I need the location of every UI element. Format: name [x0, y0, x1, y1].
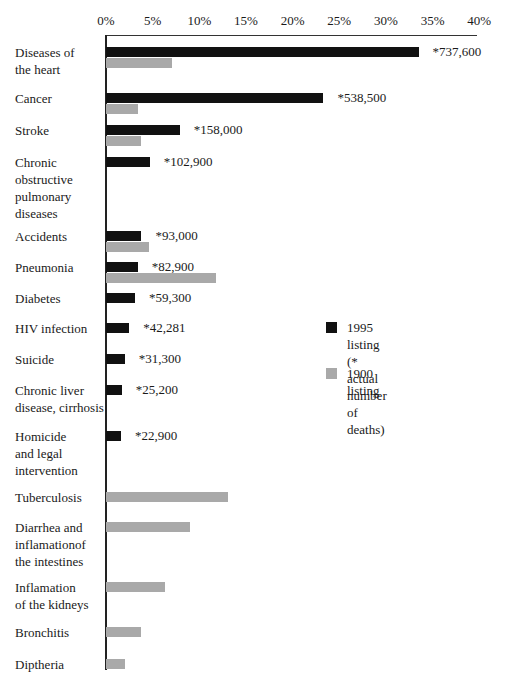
bar-1995 [106, 385, 122, 395]
bar-1995 [106, 157, 150, 167]
bar-1900 [106, 582, 165, 592]
value-annotation: *158,000 [194, 123, 243, 137]
bar-1995 [106, 354, 125, 364]
bar-1995 [106, 431, 121, 441]
bar-1995 [106, 262, 138, 272]
category-label: Chronic liver disease, cirrhosis [15, 382, 104, 416]
bar-1900 [106, 136, 141, 146]
category-label: Diptheria [15, 656, 64, 673]
bar-1900 [106, 273, 216, 283]
legend-swatch-1995 [326, 322, 337, 333]
x-tick-label: 15% [234, 13, 258, 29]
bar-1900 [106, 242, 149, 252]
category-label: Inflamation of the kidneys [15, 579, 89, 613]
category-label: Bronchitis [15, 624, 69, 641]
x-tick-label: 25% [327, 13, 351, 29]
value-annotation: *59,300 [149, 291, 191, 305]
bar-1900 [106, 492, 228, 502]
bar-1995 [106, 93, 323, 103]
x-axis-line [105, 35, 477, 36]
category-label: Diarrhea and inflamationof the intestine… [15, 519, 86, 570]
bar-1995 [106, 293, 135, 303]
bar-1900 [106, 522, 190, 532]
category-label: Diabetes [15, 290, 60, 307]
x-tick-label: 10% [187, 13, 211, 29]
bar-1995 [106, 323, 129, 333]
category-label: HIV infection [15, 320, 87, 337]
category-label: Diseases of the heart [15, 44, 75, 78]
category-label: Tuberculosis [15, 489, 82, 506]
bar-1995 [106, 125, 180, 135]
x-tick-label: 30% [374, 13, 398, 29]
category-label: Cancer [15, 90, 52, 107]
category-label: Pneumonia [15, 259, 74, 276]
x-tick-label: 5% [144, 13, 161, 29]
bar-1900 [106, 627, 141, 637]
value-annotation: *25,200 [136, 383, 178, 397]
bar-1900 [106, 58, 172, 68]
bar-1900 [106, 659, 125, 669]
category-label: Chronic obstructive pulmonary diseases [15, 154, 73, 222]
category-label: Stroke [15, 122, 49, 139]
value-annotation: *737,600 [433, 45, 482, 59]
value-annotation: *538,500 [337, 91, 386, 105]
value-annotation: *42,281 [143, 321, 185, 335]
x-tick-label: 35% [421, 13, 445, 29]
category-label: Homicide and legal intervention [15, 428, 78, 479]
x-tick-label: 0% [97, 13, 114, 29]
bar-1900 [106, 104, 138, 114]
value-annotation: *22,900 [135, 429, 177, 443]
value-annotation: *102,900 [164, 155, 213, 169]
value-annotation: *31,300 [139, 352, 181, 366]
category-label: Accidents [15, 228, 67, 245]
bar-1995 [106, 231, 141, 241]
category-label: Suicide [15, 351, 54, 368]
causes-of-death-bar-chart: 0%5%10%15%20%25%30%35%40% Diseases of th… [0, 0, 506, 683]
legend-label-1900: 1900 listing [347, 365, 380, 399]
x-tick-label: 20% [281, 13, 305, 29]
x-tick-label: 40% [467, 13, 491, 29]
value-annotation: *93,000 [155, 229, 197, 243]
value-annotation: *82,900 [152, 260, 194, 274]
bar-1995 [106, 47, 419, 57]
legend-swatch-1900 [326, 368, 337, 379]
